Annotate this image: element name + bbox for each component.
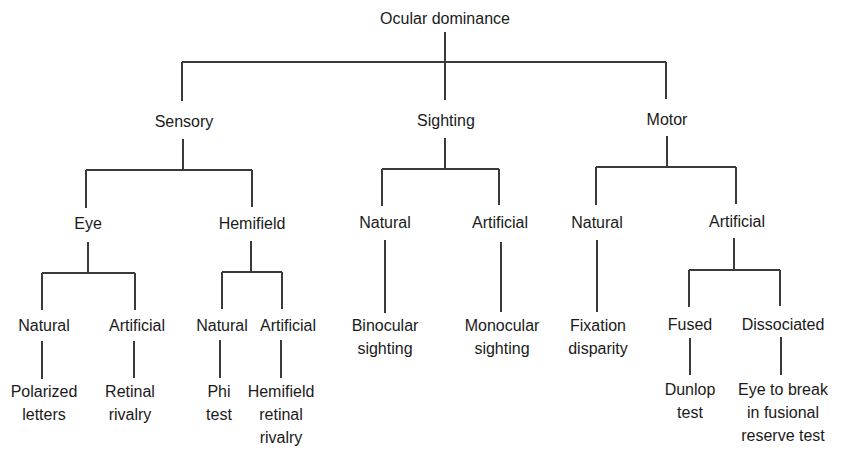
node-eye-artificial: Artificial <box>109 314 165 337</box>
node-sighting-artificial: Artificial <box>472 211 528 234</box>
leaf-line: Monocular <box>465 314 540 337</box>
node-fused: Fused <box>668 313 712 336</box>
node-label: Natural <box>571 211 623 234</box>
node-label: Sighting <box>417 109 475 132</box>
node-label: Artificial <box>472 211 528 234</box>
leaf-line: letters <box>11 403 78 426</box>
leaf-fixation-disparity: Fixation disparity <box>568 314 628 360</box>
leaf-phi-test: Phi test <box>206 380 232 426</box>
node-label: Sensory <box>155 110 214 133</box>
node-sensory: Sensory <box>155 110 214 133</box>
node-eye-natural: Natural <box>18 314 70 337</box>
leaf-monocular-sighting: Monocular sighting <box>465 314 540 360</box>
leaf-line: Fixation <box>568 314 628 337</box>
node-label: Hemifield <box>219 212 286 235</box>
node-eye: Eye <box>74 212 102 235</box>
node-label: Dissociated <box>742 313 825 336</box>
node-label: Fused <box>668 313 712 336</box>
node-dissociated: Dissociated <box>742 313 825 336</box>
leaf-line: sighting <box>465 337 540 360</box>
leaf-line: sighting <box>352 337 419 360</box>
node-label: Artificial <box>709 210 765 233</box>
leaf-polarized-letters: Polarized letters <box>11 380 78 426</box>
node-sighting: Sighting <box>417 109 475 132</box>
leaf-line: Binocular <box>352 314 419 337</box>
node-hemifield-artificial: Artificial <box>260 314 316 337</box>
node-label: Natural <box>196 314 248 337</box>
leaf-line: Hemifield <box>248 380 315 403</box>
node-label: Eye <box>74 212 102 235</box>
node-motor-natural: Natural <box>571 211 623 234</box>
leaf-line: rivalry <box>248 426 315 449</box>
node-sighting-natural: Natural <box>359 211 411 234</box>
leaf-line: rivalry <box>105 403 155 426</box>
leaf-line: Polarized <box>11 380 78 403</box>
node-label: Artificial <box>260 314 316 337</box>
node-label: Natural <box>18 314 70 337</box>
node-hemifield: Hemifield <box>219 212 286 235</box>
leaf-dunlop-test: Dunlop test <box>665 378 716 424</box>
leaf-line: test <box>206 403 232 426</box>
leaf-retinal-rivalry: Retinal rivalry <box>105 380 155 426</box>
leaf-line: retinal <box>248 403 315 426</box>
node-label: Natural <box>359 211 411 234</box>
node-label: Artificial <box>109 314 165 337</box>
node-label: Motor <box>647 108 688 131</box>
leaf-line: disparity <box>568 337 628 360</box>
leaf-line: reserve test <box>738 424 828 447</box>
node-motor-artificial: Artificial <box>709 210 765 233</box>
leaf-line: Retinal <box>105 380 155 403</box>
leaf-hemifield-retinal-rivalry: Hemifield retinal rivalry <box>248 380 315 449</box>
node-motor: Motor <box>647 108 688 131</box>
leaf-line: in fusional <box>738 401 828 424</box>
leaf-line: Phi <box>206 380 232 403</box>
node-hemifield-natural: Natural <box>196 314 248 337</box>
node-label: Ocular dominance <box>380 7 510 30</box>
leaf-line: test <box>665 401 716 424</box>
leaf-binocular-sighting: Binocular sighting <box>352 314 419 360</box>
leaf-line: Dunlop <box>665 378 716 401</box>
leaf-line: Eye to break <box>738 378 828 401</box>
node-ocular-dominance: Ocular dominance <box>380 7 510 30</box>
leaf-eye-to-break: Eye to break in fusional reserve test <box>738 378 828 447</box>
